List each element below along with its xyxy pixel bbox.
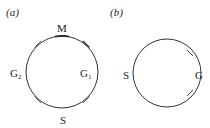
tick-mark <box>35 41 42 48</box>
tick-mark <box>83 41 90 48</box>
tick-mark <box>187 50 193 56</box>
phase-label-s: S <box>60 114 66 126</box>
cycle-circle-b <box>133 39 201 107</box>
phase-label-m: M <box>57 22 67 34</box>
m-phase-arc <box>55 36 69 37</box>
tick-mark <box>83 97 90 104</box>
tick-mark <box>35 97 42 104</box>
phase-label-s: S <box>123 69 129 81</box>
panel-a-label: (a) <box>6 6 19 19</box>
tick-mark <box>187 90 193 96</box>
panel-b-label: (b) <box>110 6 123 19</box>
panel-b: (b) S G <box>110 6 203 107</box>
phase-label-g: G <box>195 69 203 81</box>
phase-label-g2: G2 <box>10 67 22 81</box>
phase-label-g1: G1 <box>80 67 92 81</box>
cell-cycle-diagram: (a) M G1 S G2 (b) S G <box>0 0 210 128</box>
panel-a: (a) M G1 S G2 <box>6 6 98 126</box>
